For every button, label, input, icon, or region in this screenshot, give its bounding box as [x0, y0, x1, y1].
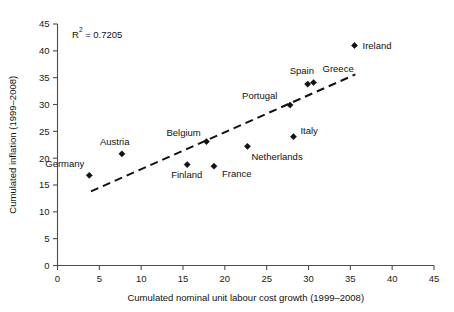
- data-point-marker: [203, 138, 209, 144]
- x-tick-label: 40: [387, 273, 398, 284]
- x-tick-label: 30: [303, 273, 314, 284]
- r-squared-text: R2 = 0.7205: [72, 25, 122, 40]
- y-axis-title: Cumulated inflation (1999–2008): [7, 76, 18, 214]
- data-point-label: Netherlands: [251, 151, 302, 162]
- data-point-marker: [310, 79, 316, 85]
- chart-canvas: 051015202530354045051015202530354045 Ger…: [0, 0, 454, 312]
- data-point-label: Belgium: [166, 127, 200, 138]
- data-point-label: Finland: [171, 169, 202, 180]
- y-tick-label: 10: [39, 206, 50, 217]
- x-tick-label: 5: [97, 273, 102, 284]
- data-point-label: Austria: [100, 136, 130, 147]
- r-squared-annotation: R2 = 0.7205: [72, 25, 122, 40]
- y-tick-label: 40: [39, 45, 50, 56]
- x-axis-title: Cumulated nominal unit labour cost growt…: [127, 292, 364, 303]
- y-tick-label: 0: [44, 260, 49, 271]
- y-tick-label: 5: [44, 233, 49, 244]
- data-point-marker: [119, 151, 125, 157]
- data-point-label: France: [222, 168, 252, 179]
- x-tick-label: 35: [345, 273, 356, 284]
- data-point-label: Italy: [300, 125, 318, 136]
- y-tick-label: 25: [39, 126, 50, 137]
- data-point-marker: [211, 163, 217, 169]
- x-tick-label: 0: [55, 273, 60, 284]
- x-tick-label: 20: [220, 273, 231, 284]
- data-point-marker: [244, 143, 250, 149]
- data-point-label: Greece: [323, 63, 354, 74]
- data-point-marker: [184, 162, 190, 168]
- x-tick-label: 10: [136, 273, 147, 284]
- data-point-label: Portugal: [242, 90, 277, 101]
- x-tick-label: 45: [429, 273, 440, 284]
- scatter-chart-figure: 051015202530354045051015202530354045 Ger…: [0, 0, 454, 312]
- point-labels: GermanyAustriaFinlandBelgiumFranceNether…: [45, 40, 391, 179]
- y-tick-label: 30: [39, 99, 50, 110]
- data-point-marker: [351, 42, 357, 48]
- data-point-marker: [305, 81, 311, 87]
- x-tick-label: 25: [261, 273, 272, 284]
- axes: 051015202530354045051015202530354045: [39, 18, 439, 283]
- r-squared-value: = 0.7205: [83, 29, 123, 40]
- data-point-label: Germany: [45, 158, 84, 169]
- data-point-marker: [86, 172, 92, 178]
- y-tick-label: 15: [39, 179, 50, 190]
- x-tick-label: 15: [178, 273, 189, 284]
- data-point-label: Spain: [290, 65, 314, 76]
- y-tick-label: 45: [39, 18, 50, 29]
- data-point-marker: [290, 134, 296, 140]
- data-points: [86, 42, 357, 178]
- y-tick-label: 35: [39, 72, 50, 83]
- data-point-label: Ireland: [363, 40, 392, 51]
- axis-titles: Cumulated nominal unit labour cost growt…: [7, 76, 364, 303]
- data-point-marker: [287, 102, 293, 108]
